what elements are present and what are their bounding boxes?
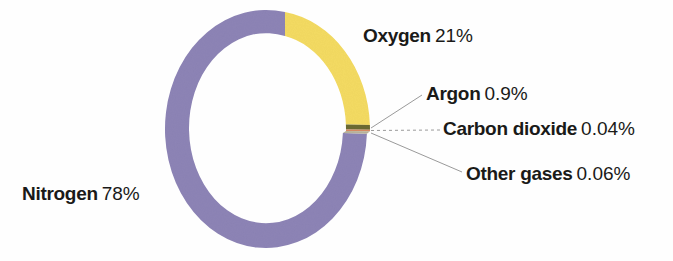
chart-figure: Oxygen21% Argon0.9% Carbon dioxide0.04% … bbox=[0, 0, 673, 261]
slice-label-oxygen-value: 21% bbox=[435, 25, 473, 46]
slice-label-oxygen: Oxygen21% bbox=[363, 26, 473, 45]
slice-label-oxygen-name: Oxygen bbox=[363, 25, 431, 46]
slice-label-carbon-dioxide-name: Carbon dioxide bbox=[443, 118, 577, 139]
slice-argon bbox=[346, 124, 370, 129]
slice-label-nitrogen-name: Nitrogen bbox=[22, 183, 98, 204]
leader-line-argon bbox=[371, 95, 422, 128]
slice-label-carbon-dioxide-value: 0.04% bbox=[581, 118, 635, 139]
slice-carbon-dioxide bbox=[346, 129, 370, 131]
slice-label-other-gases-value: 0.06% bbox=[577, 163, 631, 184]
slice-label-carbon-dioxide: Carbon dioxide0.04% bbox=[443, 119, 635, 138]
slice-label-nitrogen-value: 78% bbox=[102, 183, 140, 204]
slice-label-argon: Argon0.9% bbox=[426, 84, 528, 103]
slice-label-other-gases: Other gases0.06% bbox=[466, 164, 630, 183]
slice-label-argon-name: Argon bbox=[426, 83, 480, 104]
leader-line-co2 bbox=[371, 130, 440, 131]
slice-label-nitrogen: Nitrogen78% bbox=[22, 184, 140, 203]
slice-oxygen bbox=[285, 12, 370, 125]
slice-label-other-gases-name: Other gases bbox=[466, 163, 573, 184]
slice-label-argon-value: 0.9% bbox=[484, 83, 527, 104]
